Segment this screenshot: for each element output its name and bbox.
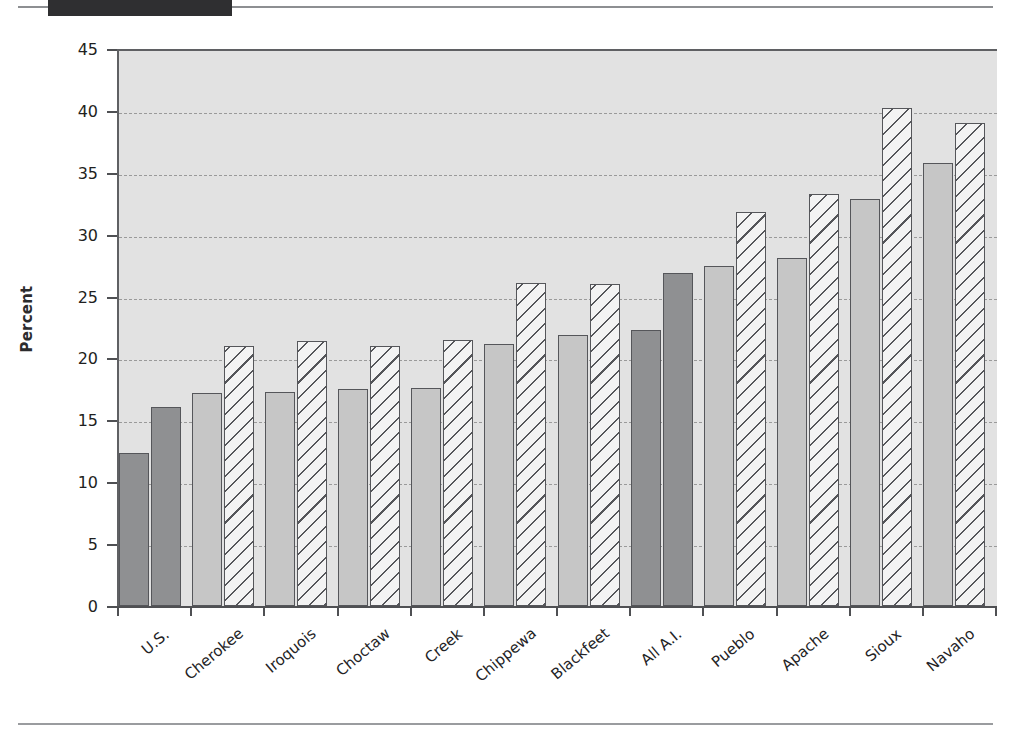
bar <box>338 389 368 606</box>
x-tick-mark <box>702 606 704 616</box>
y-tick-label: 45 <box>52 40 98 59</box>
x-tick-label: Navaho <box>923 625 978 676</box>
x-tick-mark <box>263 606 265 616</box>
y-tick-label: 40 <box>52 102 98 121</box>
bar <box>850 199 880 606</box>
x-tick-mark <box>190 606 192 616</box>
bar <box>370 346 400 606</box>
x-tick-mark <box>922 606 924 616</box>
x-tick-label: All A.I. <box>638 625 686 669</box>
x-tick-mark <box>483 606 485 616</box>
bar <box>955 123 985 606</box>
x-tick-mark <box>629 606 631 616</box>
bar <box>119 453 149 606</box>
bar <box>704 266 734 606</box>
bar <box>224 346 254 606</box>
x-tick-mark <box>337 606 339 616</box>
bar <box>663 273 693 606</box>
bar <box>590 284 620 606</box>
x-tick-mark <box>995 606 997 616</box>
bar <box>809 194 839 606</box>
bar <box>923 163 953 606</box>
x-tick-mark <box>849 606 851 616</box>
y-tick-label: 0 <box>52 597 98 616</box>
y-tick-label: 25 <box>52 288 98 307</box>
y-tick-label: 20 <box>52 349 98 368</box>
x-tick-label: Chippewa <box>472 624 540 685</box>
bar <box>265 392 295 606</box>
y-tick-label: 30 <box>52 226 98 245</box>
bar-series-container <box>117 49 995 606</box>
x-tick-label: Cherokee <box>181 624 247 683</box>
x-tick-label: Blackfeet <box>548 624 613 683</box>
x-tick-mark <box>410 606 412 616</box>
x-tick-label: Apache <box>778 625 832 675</box>
x-tick-label: Iroquois <box>263 625 320 677</box>
bar <box>516 283 546 606</box>
x-tick-mark <box>117 606 119 616</box>
bottom-horizontal-rule <box>18 723 993 725</box>
bar <box>192 393 222 606</box>
figure-page: Percent 051015202530354045 U.S.CherokeeI… <box>0 0 1011 738</box>
x-tick-label: Creek <box>421 625 466 667</box>
bar-chart-figure: Percent 051015202530354045 U.S.CherokeeI… <box>0 20 1011 720</box>
x-tick-mark <box>776 606 778 616</box>
bar <box>558 335 588 606</box>
x-axis-labels: U.S.CherokeeIroquoisChoctawCreekChippewa… <box>117 620 995 730</box>
bar <box>777 258 807 606</box>
y-tick-label: 10 <box>52 473 98 492</box>
bar <box>484 344 514 606</box>
y-tick-label: 35 <box>52 164 98 183</box>
x-tick-label: Choctaw <box>332 624 393 679</box>
bar <box>411 388 441 606</box>
bar <box>443 340 473 606</box>
x-tick-label: Sioux <box>862 625 905 665</box>
title-block-redacted <box>48 0 232 16</box>
x-tick-mark <box>556 606 558 616</box>
x-tick-label: Pueblo <box>708 625 758 671</box>
bar <box>736 212 766 606</box>
y-axis-label: Percent <box>18 286 36 353</box>
bar <box>151 407 181 606</box>
bar <box>631 330 661 606</box>
bar <box>882 108 912 606</box>
x-tick-label: U.S. <box>138 625 173 658</box>
y-tick-label: 5 <box>52 535 98 554</box>
bar <box>297 341 327 606</box>
y-tick-label: 15 <box>52 411 98 430</box>
